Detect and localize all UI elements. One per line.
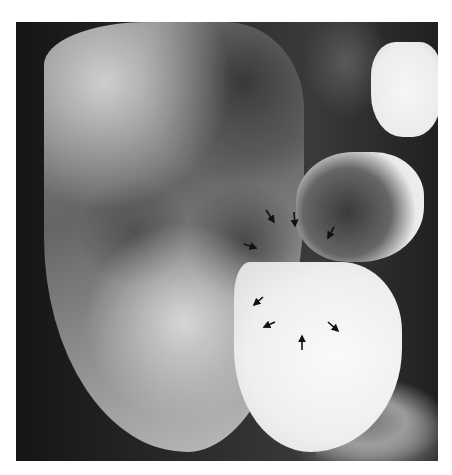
arrow-icon [244, 244, 256, 248]
arrow-icon [266, 210, 274, 222]
arrow-icon [328, 322, 338, 331]
arrow-icon [264, 322, 275, 327]
arrow-icon [294, 212, 295, 226]
annotation-arrows [16, 22, 438, 461]
arrow-icon [328, 227, 334, 238]
radiograph-image [16, 22, 438, 461]
arrow-icon [254, 297, 263, 305]
